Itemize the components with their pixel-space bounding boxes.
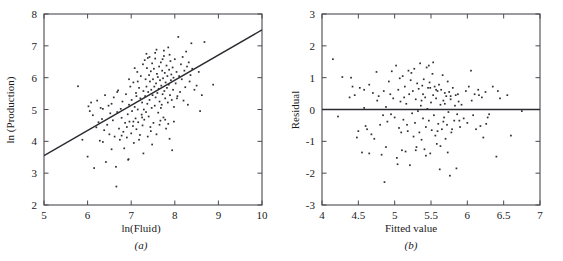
data-point bbox=[444, 92, 446, 94]
data-point bbox=[455, 94, 457, 96]
data-point bbox=[106, 124, 108, 126]
data-point bbox=[160, 107, 162, 109]
data-point bbox=[419, 132, 421, 134]
data-point bbox=[431, 129, 433, 131]
data-point bbox=[433, 114, 435, 116]
data-point bbox=[457, 93, 459, 95]
data-point bbox=[416, 146, 418, 148]
x-tick-label: 10 bbox=[257, 209, 269, 221]
data-point bbox=[144, 95, 146, 97]
data-point bbox=[161, 104, 163, 106]
data-point bbox=[128, 158, 130, 160]
data-point bbox=[150, 126, 152, 128]
data-point bbox=[471, 100, 473, 102]
data-point bbox=[136, 71, 138, 73]
data-point bbox=[201, 94, 203, 96]
data-point bbox=[472, 114, 474, 116]
data-point bbox=[161, 70, 163, 72]
data-point bbox=[163, 50, 165, 52]
data-point bbox=[384, 181, 386, 183]
data-point bbox=[422, 93, 424, 95]
data-point bbox=[115, 166, 117, 168]
data-point bbox=[456, 113, 458, 115]
data-point bbox=[144, 59, 146, 61]
data-point bbox=[155, 97, 157, 99]
data-point bbox=[164, 119, 166, 121]
data-point bbox=[116, 91, 118, 93]
data-point bbox=[148, 74, 150, 76]
data-point bbox=[443, 121, 445, 123]
data-point bbox=[352, 86, 354, 88]
data-point bbox=[474, 93, 476, 95]
data-point bbox=[395, 65, 397, 67]
data-point bbox=[167, 123, 169, 125]
data-point bbox=[191, 68, 193, 70]
data-point bbox=[412, 90, 414, 92]
data-point bbox=[160, 62, 162, 64]
data-point bbox=[350, 77, 352, 79]
data-point bbox=[167, 75, 169, 77]
data-point bbox=[170, 60, 172, 62]
data-point bbox=[163, 117, 165, 119]
data-point bbox=[403, 119, 405, 121]
data-point bbox=[488, 113, 490, 115]
data-point bbox=[158, 88, 160, 90]
data-point bbox=[420, 105, 422, 107]
data-point bbox=[440, 104, 442, 106]
data-point bbox=[127, 113, 129, 115]
data-point bbox=[123, 147, 125, 149]
x-tick-label: 4 bbox=[319, 209, 325, 221]
data-point bbox=[173, 77, 175, 79]
data-point bbox=[176, 98, 178, 100]
data-point bbox=[183, 100, 185, 102]
data-point bbox=[405, 151, 407, 153]
data-point bbox=[118, 128, 120, 130]
data-point bbox=[101, 118, 103, 120]
data-point bbox=[429, 82, 431, 84]
data-point bbox=[389, 93, 391, 95]
data-point bbox=[174, 58, 176, 60]
data-point bbox=[485, 123, 487, 125]
y-tick-label: 2 bbox=[32, 199, 38, 211]
data-point bbox=[145, 111, 147, 113]
data-point bbox=[88, 105, 90, 107]
data-point bbox=[124, 122, 126, 124]
data-point bbox=[477, 89, 479, 91]
data-point bbox=[134, 106, 136, 108]
data-point bbox=[521, 110, 523, 112]
data-point bbox=[379, 124, 381, 126]
data-point bbox=[424, 148, 426, 150]
data-point bbox=[95, 126, 97, 128]
data-point bbox=[90, 102, 92, 104]
data-point bbox=[445, 95, 447, 97]
x-tick-label: 5 bbox=[392, 209, 398, 221]
data-point bbox=[130, 133, 132, 135]
data-point bbox=[149, 56, 151, 58]
data-point bbox=[461, 104, 463, 106]
data-point bbox=[337, 116, 339, 118]
data-point bbox=[397, 163, 399, 165]
data-point bbox=[418, 88, 420, 90]
data-point bbox=[92, 114, 94, 116]
data-point bbox=[160, 85, 162, 87]
data-point bbox=[148, 116, 150, 118]
data-point bbox=[156, 73, 158, 75]
data-point bbox=[399, 77, 401, 79]
data-point bbox=[89, 110, 91, 112]
data-point bbox=[190, 74, 192, 76]
data-point bbox=[463, 118, 465, 120]
data-point bbox=[153, 122, 155, 124]
data-point bbox=[128, 78, 130, 80]
y-tick-label: -2 bbox=[306, 167, 315, 179]
data-point bbox=[191, 42, 193, 44]
data-point bbox=[429, 153, 431, 155]
data-point bbox=[138, 139, 140, 141]
figure-container: 56789102345678 ln(Fluid) ln (Production)… bbox=[0, 0, 563, 261]
data-point bbox=[421, 85, 423, 87]
data-point bbox=[147, 91, 149, 93]
data-point bbox=[120, 108, 122, 110]
data-point bbox=[458, 101, 460, 103]
data-point bbox=[404, 86, 406, 88]
data-point bbox=[417, 110, 419, 112]
data-point bbox=[169, 54, 171, 56]
